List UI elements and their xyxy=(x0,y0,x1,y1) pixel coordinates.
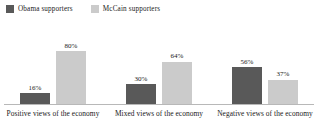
bar-obama-positive xyxy=(20,93,50,104)
bar-group-negative: 56% 37% xyxy=(212,18,318,104)
legend-item-mccain: McCain supporters xyxy=(91,3,160,15)
bar-wrap-obama-negative: 56% xyxy=(232,18,262,104)
bar-wrap-mccain-mixed: 64% xyxy=(162,18,192,104)
bar-wrap-obama-positive: 16% xyxy=(20,18,50,104)
bar-wrap-mccain-negative: 37% xyxy=(268,18,298,104)
x-axis-label-negative: Negative views of the economy xyxy=(212,108,318,119)
legend-swatch-mccain-icon xyxy=(91,5,99,13)
plot-area: 16% 80% 30% 64% 56% 37% xyxy=(0,18,318,105)
x-axis-category-labels: Positive views of the economy Mixed view… xyxy=(0,108,318,124)
x-axis-label-mixed: Mixed views of the economy xyxy=(106,108,212,119)
bar-value-obama-positive: 16% xyxy=(28,84,41,92)
bar-value-mccain-mixed: 64% xyxy=(170,52,183,60)
bar-value-obama-negative: 56% xyxy=(240,58,253,66)
chart-legend: Obama supporters McCain supporters xyxy=(6,3,160,15)
legend-label-mccain: McCain supporters xyxy=(103,5,160,14)
bar-group-mixed: 30% 64% xyxy=(106,18,212,104)
legend-item-obama: Obama supporters xyxy=(6,3,73,15)
bar-obama-mixed xyxy=(126,84,156,104)
legend-swatch-obama-icon xyxy=(6,5,14,13)
bar-value-mccain-negative: 37% xyxy=(276,70,289,78)
bar-mccain-mixed xyxy=(162,62,192,104)
bar-wrap-obama-mixed: 30% xyxy=(126,18,156,104)
grouped-bar-chart: Obama supporters McCain supporters 16% 8… xyxy=(0,0,318,126)
bar-mccain-negative xyxy=(268,80,298,104)
bar-value-mccain-positive: 80% xyxy=(64,42,77,50)
bar-group-positive: 16% 80% xyxy=(0,18,106,104)
bar-value-obama-mixed: 30% xyxy=(134,75,147,83)
x-axis-baseline xyxy=(4,104,314,105)
bar-wrap-mccain-positive: 80% xyxy=(56,18,86,104)
bar-obama-negative xyxy=(232,67,262,104)
legend-label-obama: Obama supporters xyxy=(18,5,73,14)
bar-mccain-positive xyxy=(56,51,86,104)
x-axis-label-positive: Positive views of the economy xyxy=(0,108,106,119)
